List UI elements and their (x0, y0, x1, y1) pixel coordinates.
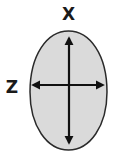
x-axis-label: X (62, 4, 75, 24)
axis-ellipse-diagram: X Z (0, 0, 118, 157)
z-axis-label: Z (6, 77, 18, 97)
